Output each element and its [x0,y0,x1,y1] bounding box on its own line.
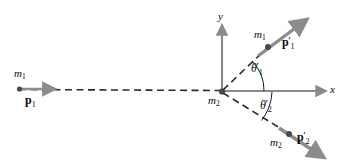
incoming-particle-dot [17,86,22,91]
outgoing-1-momentum-label: p′1 [282,35,295,51]
incoming-particle-group [17,86,221,91]
outgoing-1-mass-label: m1 [254,29,266,42]
theta-1-label: θ′1 [251,61,263,77]
outgoing-2-particle-dot [286,131,292,137]
theta-2-label: θ′2 [260,98,272,114]
incoming-momentum-label: p1 [25,94,36,109]
outgoing-1-particle-dot [265,44,271,50]
x-axis-label: x [330,84,335,95]
collision-diagram: y x m1 p1 m2 m1 p′1 θ′1 θ′2 m2 p′2 [0,0,351,164]
axis-group [222,26,325,92]
outgoing-2-dashed-path [223,93,288,133]
incoming-mass-label: m1 [14,68,26,81]
outgoing-2-momentum-label: p′2 [297,130,310,146]
outgoing-2-mass-label: m2 [270,137,282,150]
y-axis-label: y [218,11,223,22]
target-mass-label: m2 [208,95,220,108]
